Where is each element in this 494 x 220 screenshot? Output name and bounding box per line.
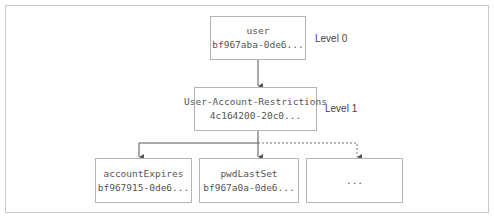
node-id: bf967aba-0de6... xyxy=(212,38,304,52)
node-more: ... xyxy=(306,158,403,203)
node-ellipsis: ... xyxy=(346,174,363,188)
node-name: User-Account-Restrictions xyxy=(184,95,327,109)
node-name: accountExpires xyxy=(103,167,183,181)
node-account-expires: accountExpires bf967915-0de6... xyxy=(95,158,192,203)
node-name: user xyxy=(247,24,270,38)
node-name: pwdLastSet xyxy=(220,167,277,181)
node-pwd-last-set: pwdLastSet bf967a0a-0de6... xyxy=(199,158,299,203)
node-user: user bf967aba-0de6... xyxy=(210,16,306,60)
node-user-account-restrictions: User-Account-Restrictions 4c164200-20c0.… xyxy=(194,87,317,131)
node-id: 4c164200-20c0... xyxy=(210,109,302,123)
level-1-label: Level 1 xyxy=(325,103,357,114)
node-id: bf967915-0de6... xyxy=(98,181,190,195)
node-id: bf967a0a-0de6... xyxy=(203,181,295,195)
level-0-label: Level 0 xyxy=(315,33,347,44)
